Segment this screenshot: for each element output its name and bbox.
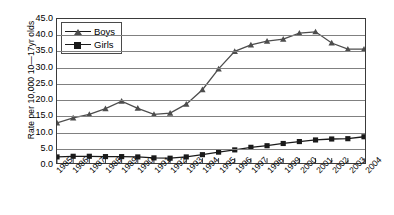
x-tick-label: 1991 [152,155,172,175]
x-tick-label: 1999 [282,155,302,175]
x-tick-label: 1990 [135,155,155,175]
x-tick-label: 1995 [217,155,237,175]
x-tick-label: 1986 [70,155,90,175]
x-tick-label: 2004 [363,155,383,175]
x-tick-label: 1994 [200,155,220,175]
x-tick-label: 2002 [330,155,350,175]
x-tick-label: 2003 [347,155,367,175]
x-tick-label: 1998 [265,155,285,175]
x-axis-tick-labels: 1985198619871988198919901991199219931994… [0,0,394,215]
line-chart: Rate per 10,000 10—17yr olds 0.05.010.01… [0,0,394,215]
x-tick-label: 1988 [103,155,123,175]
x-tick-label: 1987 [87,155,107,175]
